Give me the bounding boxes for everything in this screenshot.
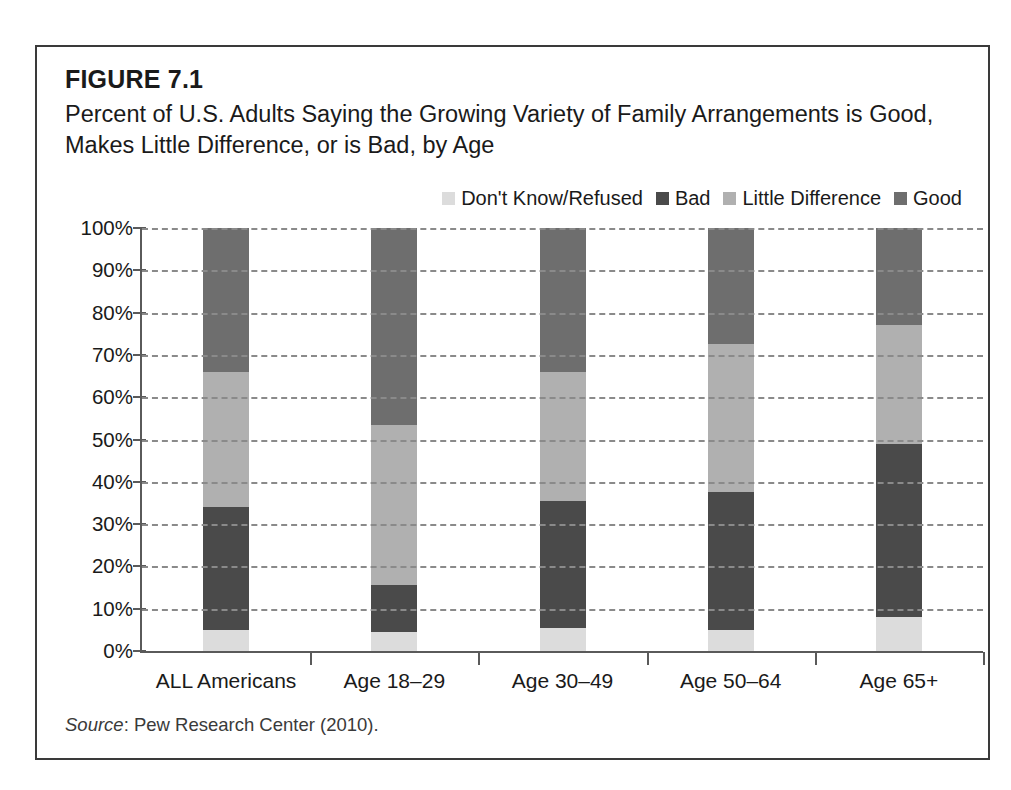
- bar-segment[interactable]: [708, 228, 754, 344]
- gridline: [142, 609, 983, 611]
- bar-segment[interactable]: [708, 630, 754, 651]
- gridline: [142, 566, 983, 568]
- y-axis-tick-label: 20%: [92, 554, 133, 578]
- gridline: [142, 270, 983, 272]
- bar-segment[interactable]: [876, 325, 922, 443]
- source-word: Source: [65, 714, 124, 735]
- x-axis-tick-mark: [815, 652, 817, 665]
- y-axis-tick-label: 0%: [103, 639, 133, 663]
- bar-segment[interactable]: [876, 444, 922, 617]
- x-axis-tick-label: Age 65+: [859, 669, 938, 693]
- x-axis-line: [140, 651, 983, 653]
- plot-area: 0%10%20%30%40%50%60%70%80%90%100% ALL Am…: [37, 47, 992, 762]
- bar-segment[interactable]: [371, 632, 417, 651]
- gridline: [142, 228, 983, 230]
- gridline: [142, 482, 983, 484]
- x-axis-tick-label: Age 50–64: [680, 669, 782, 693]
- gridline: [142, 397, 983, 399]
- y-axis-tick-label: 100%: [81, 216, 133, 240]
- gridline: [142, 313, 983, 315]
- x-axis-tick-mark: [983, 652, 985, 665]
- x-axis-tick-label: Age 18–29: [343, 669, 445, 693]
- y-axis-tick-labels: 0%10%20%30%40%50%60%70%80%90%100%: [55, 228, 133, 650]
- y-axis-tick-label: 50%: [92, 428, 133, 452]
- x-axis-tick-mark: [478, 652, 480, 665]
- y-axis-tick-label: 10%: [92, 597, 133, 621]
- bar-segment[interactable]: [371, 425, 417, 586]
- y-axis-tick-label: 80%: [92, 301, 133, 325]
- source-note: Source: Pew Research Center (2010).: [65, 714, 379, 736]
- gridline: [142, 355, 983, 357]
- x-axis-tick-mark: [647, 652, 649, 665]
- y-axis-tick-label: 40%: [92, 470, 133, 494]
- gridline: [142, 524, 983, 526]
- bar-segment[interactable]: [203, 630, 249, 651]
- bar-segment[interactable]: [371, 228, 417, 425]
- x-axis-tick-labels: ALL AmericansAge 18–29Age 30–49Age 50–64…: [142, 669, 983, 701]
- gridline: [142, 440, 983, 442]
- y-axis-tick-label: 70%: [92, 343, 133, 367]
- bar-segment[interactable]: [876, 228, 922, 325]
- bar-segment[interactable]: [540, 228, 586, 372]
- y-axis-tick-label: 30%: [92, 512, 133, 536]
- bar-segment[interactable]: [203, 228, 249, 372]
- y-axis-tick-mark: [133, 650, 146, 652]
- x-axis-tick-mark: [310, 652, 312, 665]
- bar-segment[interactable]: [708, 344, 754, 492]
- x-axis-tick-label: Age 30–49: [512, 669, 614, 693]
- y-axis-tick-label: 60%: [92, 385, 133, 409]
- bar-segment[interactable]: [876, 617, 922, 651]
- figure-frame: FIGURE 7.1 Percent of U.S. Adults Saying…: [35, 45, 990, 760]
- source-text: : Pew Research Center (2010).: [124, 714, 379, 735]
- bar-segment[interactable]: [540, 628, 586, 651]
- y-axis-tick-label: 90%: [92, 258, 133, 282]
- x-axis-tick-label: ALL Americans: [156, 669, 296, 693]
